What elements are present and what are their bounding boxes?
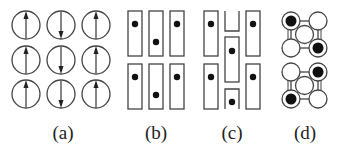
panel-d — [282, 12, 327, 108]
figure-canvas: (a) (b) (c) (d) — [0, 0, 346, 146]
spin-circle-down-icon — [47, 80, 75, 108]
panel-d-label: (d) — [294, 122, 316, 144]
cube-lattice-top — [282, 12, 327, 57]
spin-circle-up-icon — [12, 11, 40, 39]
panel-a-label: (a) — [52, 122, 73, 144]
panel-b-label: (b) — [145, 122, 167, 144]
spin-circle-up-icon — [82, 80, 110, 108]
cube-lattice-bottom — [282, 63, 327, 108]
spin-circle-up-icon — [82, 11, 110, 39]
panel-c — [204, 11, 260, 109]
panel-c-label: (c) — [221, 122, 242, 144]
panel-a — [12, 11, 110, 108]
panel-b — [128, 11, 184, 109]
spin-circle-up-icon — [12, 80, 40, 108]
spin-circle-down-icon — [47, 11, 75, 39]
spin-circle-down-icon — [47, 46, 75, 74]
spin-circle-up-icon — [82, 46, 110, 74]
spin-circle-up-icon — [12, 46, 40, 74]
